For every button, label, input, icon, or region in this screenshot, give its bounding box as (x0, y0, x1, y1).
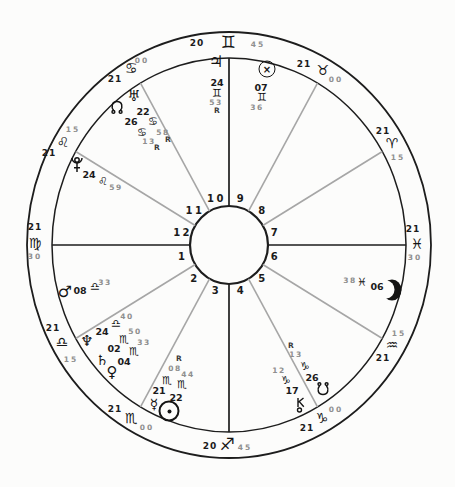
ring-leo-degree: 21 (42, 149, 57, 158)
sun-icon (159, 401, 180, 422)
center-circle (190, 206, 268, 284)
capricorn-sign-icon: ♑ (316, 411, 329, 425)
planet-saturn-degree: 02 (107, 344, 120, 354)
planet-neptune-degree: 24 (95, 327, 108, 337)
aries-sign-icon: ♈ (386, 136, 399, 150)
pisces-sign-icon: ♓ (411, 237, 424, 251)
planet-jupiter-sign-icon: ♊ (212, 88, 222, 99)
planet-sun-degree: 22 (169, 393, 182, 403)
ring-aries-minutes: 15 (391, 154, 405, 162)
planet-chiron-minutes: 12 (272, 367, 285, 375)
chiron-icon (295, 397, 306, 413)
planet-mercury-minutes: 08 (168, 365, 181, 373)
planet-moon-sign-icon: ♓ (357, 277, 367, 288)
planet-pluto-sign-icon: ♌ (98, 176, 108, 187)
house-3-number: 3 (212, 286, 221, 296)
wheel-lines (0, 0, 455, 487)
mars-icon: ♂ (58, 284, 72, 300)
scorpio-sign-icon: ♏ (125, 411, 138, 425)
ring-aquarius-minutes: 15 (392, 330, 406, 338)
ring-pisces-minutes: 30 (408, 254, 422, 262)
planet-mars-degree: 08 (73, 286, 86, 296)
planet-venus-degree: 04 (117, 357, 130, 367)
house-cusp-line-8 (263, 152, 383, 226)
house-1-number: 1 (178, 252, 187, 262)
house-11-number: 11 (186, 206, 205, 216)
ring-taurus-degree: 21 (297, 60, 312, 69)
planet-south-node-degree: 26 (305, 373, 318, 383)
planet-jupiter-retrograde: R (214, 107, 220, 115)
ring-capricorn-degree: 21 (300, 424, 315, 433)
planet-mercury-retrograde: R (176, 355, 182, 363)
ring-sagittarius-minutes: 45 (238, 444, 252, 452)
house-cusp-line-11 (141, 83, 210, 211)
planet-south-node-sign-icon: ♑ (300, 361, 310, 372)
house-2-number: 2 (190, 274, 199, 284)
house-8-number: 8 (258, 206, 267, 216)
moon-icon (383, 280, 402, 301)
aquarius-sign-icon: ♒ (386, 338, 399, 352)
ring-aquarius-degree: 21 (376, 354, 391, 363)
planet-moon-minutes: 38 (343, 277, 356, 285)
planet-mercury-degree: 21 (152, 386, 165, 396)
ring-cancer-minutes: 00 (135, 57, 149, 65)
planet-neptune-minutes: 40 (120, 313, 133, 321)
planet-north-node-degree: 26 (124, 117, 137, 127)
ring-scorpio-degree: 21 (108, 405, 123, 414)
house-5-number: 5 (258, 274, 267, 284)
saturn-icon: ♄ (96, 353, 109, 367)
ring-cancer-degree: 21 (108, 75, 123, 84)
planet-saturn-minutes: 50 (128, 328, 141, 336)
planet-uranus-sign-icon: ♋ (148, 116, 158, 127)
planet-north-node-sign-icon: ♋ (137, 127, 147, 138)
virgo-sign-icon: ♍ (29, 236, 42, 250)
planet-part-of-fortune-sign-icon: ♊ (257, 92, 267, 103)
planet-mars-minutes: 33 (98, 279, 111, 287)
ring-libra-minutes: 15 (64, 356, 78, 364)
taurus-sign-icon: ♉ (317, 63, 330, 77)
ring-sagittarius-degree: 20 (203, 442, 218, 451)
ring-gemini-degree: 20 (190, 39, 205, 48)
sagittarius-sign-icon: ♐ (219, 436, 234, 453)
ring-virgo-minutes: 30 (28, 253, 42, 261)
ring-leo-minutes: 15 (66, 126, 80, 134)
planet-pluto-minutes: 59 (109, 184, 122, 192)
libra-sign-icon: ♎ (56, 335, 69, 349)
planet-sun-minutes: 44 (181, 371, 194, 379)
neptune-icon: ♆ (80, 334, 93, 349)
planet-sun-sign-icon: ♏ (177, 379, 187, 390)
ring-scorpio-minutes: 00 (140, 424, 154, 432)
ring-taurus-minutes: 00 (329, 76, 343, 84)
jupiter-icon: ♃ (209, 54, 223, 70)
planet-south-node-minutes: 13 (289, 351, 302, 359)
north-node-icon (110, 99, 124, 116)
part-of-fortune-icon: × (259, 61, 276, 78)
house-cusp-line-5 (249, 279, 318, 407)
house-cusp-line-3 (141, 279, 210, 407)
mercury-icon: ☿ (150, 397, 159, 411)
ring-virgo-degree: 21 (28, 223, 43, 232)
ring-gemini-minutes: 45 (251, 41, 265, 49)
gemini-sign-icon: ♊ (220, 34, 235, 51)
ring-capricorn-minutes: 00 (329, 406, 343, 414)
planet-venus-minutes: 33 (137, 339, 150, 347)
uranus-icon: ♅ (127, 89, 140, 104)
planet-uranus-retrograde: R (165, 136, 171, 144)
house-7-number: 7 (271, 228, 280, 238)
natal-chart-wheel: 21♍3021♎1521♏0020♐4521♑0021♒1521♓3021♈15… (0, 0, 455, 487)
house-12-number: 12 (173, 228, 192, 238)
planet-north-node-retrograde: R (154, 144, 160, 152)
planet-moon-degree: 06 (370, 282, 383, 292)
planet-pluto-degree: 24 (82, 170, 95, 180)
house-10-number: 10 (207, 194, 226, 204)
house-6-number: 6 (271, 252, 280, 262)
house-4-number: 4 (237, 286, 246, 296)
planet-chiron-degree: 17 (285, 386, 298, 396)
planet-mercury-sign-icon: ♏ (162, 375, 172, 386)
house-9-number: 9 (237, 194, 246, 204)
house-cusp-line-12 (76, 152, 196, 226)
ring-libra-degree: 21 (46, 324, 61, 333)
ring-pisces-degree: 21 (406, 225, 421, 234)
planet-south-node-retrograde: R (288, 342, 294, 350)
leo-sign-icon: ♌ (57, 135, 70, 149)
